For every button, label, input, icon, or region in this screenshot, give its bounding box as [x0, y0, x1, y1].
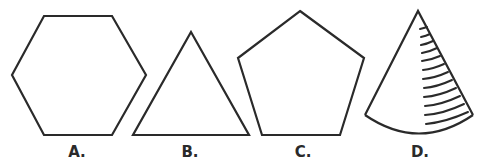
shapes-diagram	[0, 0, 487, 167]
cone-shape	[365, 11, 473, 134]
figure-label-c: C.	[283, 143, 323, 161]
figure-label-d: D.	[400, 143, 440, 161]
triangle-shape	[133, 32, 249, 135]
hexagon-shape	[12, 16, 146, 135]
pentagon-shape	[238, 11, 364, 135]
figure-label-a: A.	[57, 143, 97, 161]
figure-label-b: B.	[170, 143, 210, 161]
cone-shading-hatch	[420, 27, 468, 124]
